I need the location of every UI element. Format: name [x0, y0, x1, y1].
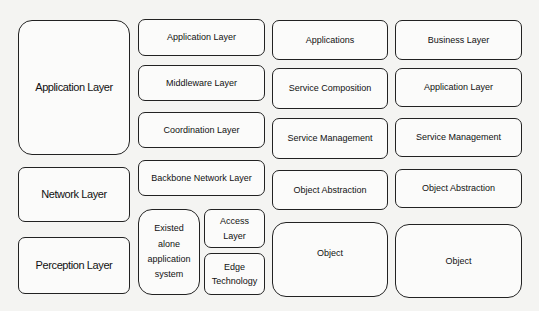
- box-label: Service Composition: [289, 82, 372, 94]
- col1-application-layer: Application Layer: [18, 20, 130, 155]
- box-label: Applications: [306, 34, 355, 46]
- col1-perception-layer: Perception Layer: [18, 237, 130, 294]
- col2-middleware-layer: Middleware Layer: [138, 65, 265, 101]
- box-label: Object Abstraction: [293, 184, 366, 196]
- box-label: Middleware Layer: [166, 77, 237, 89]
- col2-backbone-network-layer: Backbone Network Layer: [138, 160, 265, 196]
- col4-object-abstraction: Object Abstraction: [395, 169, 522, 208]
- col4-object: Object: [395, 224, 522, 298]
- box-label: Object Abstraction: [422, 182, 495, 194]
- box-label: Application Layer: [424, 81, 493, 93]
- box-label: Access Layer: [213, 214, 256, 243]
- box-label: Edge Technology: [209, 260, 260, 289]
- box-label: Service Management: [287, 132, 372, 144]
- box-label: Network Layer: [41, 187, 107, 202]
- col3-object: Object: [272, 222, 388, 297]
- box-label: Backbone Network Layer: [151, 172, 252, 184]
- col1-network-layer: Network Layer: [18, 167, 130, 222]
- col2-access-layer: Access Layer: [204, 209, 265, 248]
- col4-business-layer: Business Layer: [395, 20, 522, 60]
- col3-service-management: Service Management: [272, 118, 388, 159]
- box-label: Service Management: [416, 131, 501, 143]
- col2-existed-alone-application-system: Existed alone application system: [138, 209, 200, 295]
- box-label: Application Layer: [167, 31, 236, 43]
- col3-applications: Applications: [272, 20, 388, 60]
- col3-object-abstraction: Object Abstraction: [272, 170, 388, 210]
- col2-application-layer: Application Layer: [138, 19, 265, 56]
- box-label: Existed alone application system: [143, 221, 195, 282]
- col2-edge-technology: Edge Technology: [204, 253, 265, 295]
- box-label: Object: [317, 247, 343, 259]
- col3-service-composition: Service Composition: [272, 68, 388, 109]
- box-label: Object: [445, 255, 471, 267]
- box-label: Application Layer: [35, 80, 113, 95]
- box-label: Perception Layer: [36, 258, 113, 273]
- col2-coordination-layer: Coordination Layer: [138, 112, 265, 148]
- box-label: Coordination Layer: [163, 124, 239, 136]
- box-label: Business Layer: [428, 34, 490, 46]
- col4-service-management: Service Management: [395, 118, 522, 157]
- col4-application-layer: Application Layer: [395, 68, 522, 107]
